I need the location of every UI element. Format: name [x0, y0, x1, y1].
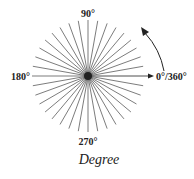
- label-90: 90°: [81, 8, 95, 19]
- rotation-arc: [145, 33, 164, 71]
- caption: Degree: [78, 152, 120, 167]
- label-270: 270°: [79, 136, 98, 147]
- degree-diagram: 90° 180° 270° 0°/360° Degree: [0, 0, 194, 179]
- label-0-360: 0°/360°: [156, 71, 187, 82]
- label-180: 180°: [11, 71, 30, 82]
- rotation-arrowhead-icon: [141, 27, 149, 36]
- zero-axis-arrowhead-icon: [148, 74, 154, 79]
